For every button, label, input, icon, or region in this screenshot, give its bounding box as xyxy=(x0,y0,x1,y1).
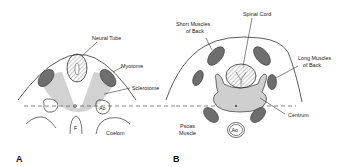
long-muscles-label-2: of Back xyxy=(303,62,321,68)
f-label: F xyxy=(74,125,78,131)
sclerotome-label: Sclerotome xyxy=(132,85,159,91)
panel-a-letter: A xyxy=(16,154,23,164)
spinal-cord-label: Spinal Cord xyxy=(243,11,271,17)
long-muscles-label-1: Long Muscles xyxy=(298,55,332,61)
embryology-diagram: Ao F Coelom Neural Tube Myotome Scleroto… xyxy=(0,0,356,167)
short-muscle-left-lower xyxy=(191,69,206,87)
neural-tube-label: Neural Tube xyxy=(92,35,121,41)
psoas-muscle-left xyxy=(201,105,222,126)
short-muscles-label-2: of Back xyxy=(186,28,204,34)
short-muscles-label-1: Short Muscles xyxy=(176,21,210,27)
panel-a: Ao F Coelom Neural Tube Myotome Scleroto… xyxy=(16,35,176,164)
short-muscle-left-upper xyxy=(204,44,227,69)
long-muscle-right xyxy=(268,75,277,90)
panel-b-letter: B xyxy=(173,154,180,164)
centrum-label: Centrum xyxy=(288,112,309,118)
coelom-label: Coelom xyxy=(106,130,125,136)
aorta-label-b: Ao xyxy=(232,127,239,133)
myotome-label: Myotome xyxy=(121,63,143,69)
psoas-label-2: Muscle xyxy=(179,130,196,136)
psoas-label-1: Psoas xyxy=(180,123,195,129)
short-muscle-right-upper xyxy=(250,44,273,69)
panel-b: Ao Spinal Cord Short Muscles of Back Lon… xyxy=(166,11,332,164)
